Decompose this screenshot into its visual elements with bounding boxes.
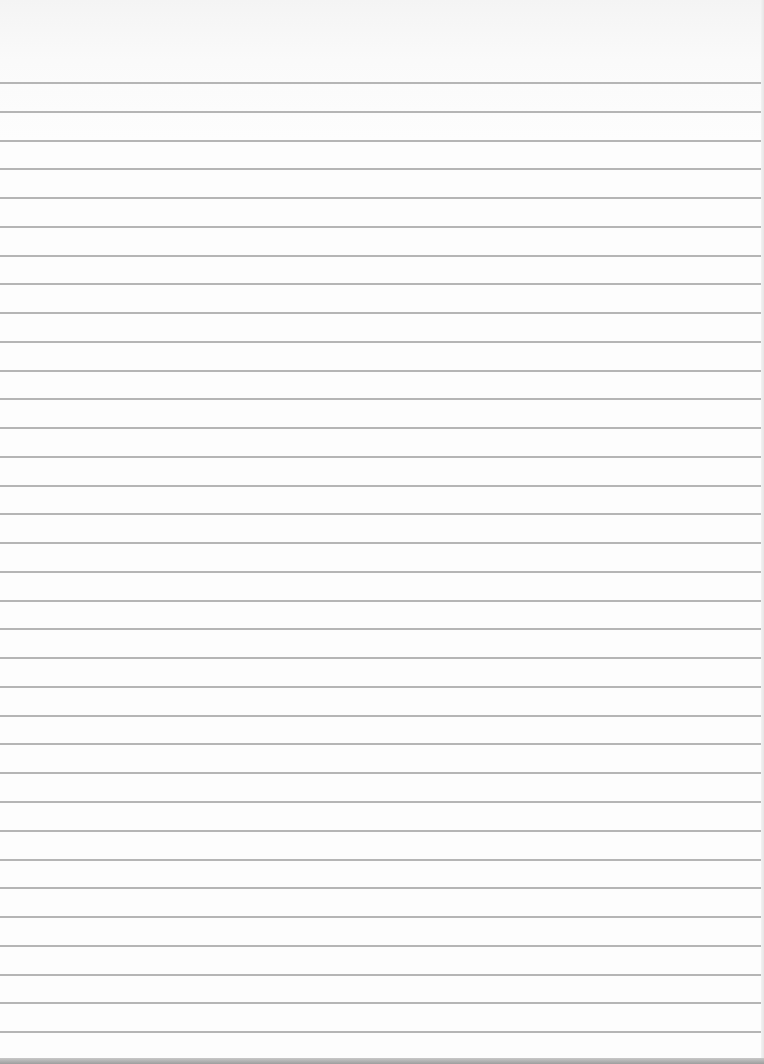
ruled-line [0, 341, 764, 343]
ruled-line [0, 168, 764, 170]
ruled-line [0, 427, 764, 429]
ruled-line [0, 542, 764, 544]
ruled-line [0, 801, 764, 803]
ruled-line [0, 370, 764, 372]
ruled-line [0, 686, 764, 688]
ruled-line [0, 1031, 764, 1033]
ruled-line [0, 485, 764, 487]
ruled-line [0, 226, 764, 228]
ruled-line [0, 743, 764, 745]
ruled-line [0, 111, 764, 113]
ruled-line [0, 945, 764, 947]
ruled-line [0, 255, 764, 257]
ruled-line [0, 513, 764, 515]
ruled-line [0, 82, 764, 84]
ruled-line [0, 600, 764, 602]
ruled-line [0, 974, 764, 976]
ruled-line [0, 628, 764, 630]
ruled-line [0, 830, 764, 832]
ruled-line [0, 571, 764, 573]
ruled-line [0, 140, 764, 142]
scan-bottom-edge [0, 1058, 764, 1064]
ruled-line [0, 456, 764, 458]
lined-paper-sheet [0, 0, 764, 1058]
ruled-line [0, 398, 764, 400]
ruled-line [0, 197, 764, 199]
ruled-line [0, 283, 764, 285]
ruled-line [0, 312, 764, 314]
ruled-line [0, 657, 764, 659]
ruled-line [0, 772, 764, 774]
ruled-line [0, 859, 764, 861]
ruled-line [0, 1002, 764, 1004]
ruled-line [0, 916, 764, 918]
ruled-line [0, 887, 764, 889]
ruled-line [0, 715, 764, 717]
